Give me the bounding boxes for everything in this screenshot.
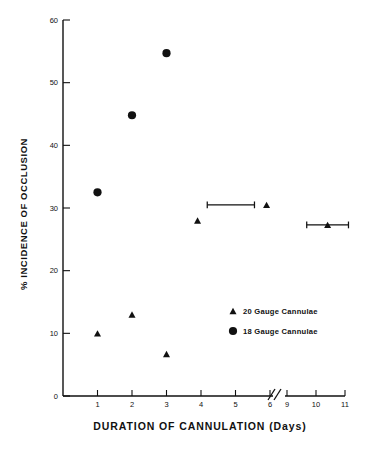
x-tick-label: 10 xyxy=(312,400,320,409)
chart-legend: 20 Gauge Cannulae18 Gauge Cannulae xyxy=(229,307,318,336)
x-tick-label: 9 xyxy=(285,400,289,409)
x-axis-label: DURATION OF CANNULATION (Days) xyxy=(93,420,306,432)
data-point-triangle xyxy=(94,330,101,336)
x-tick-label: 6 xyxy=(268,400,272,409)
x-tick-label: 4 xyxy=(199,400,203,409)
y-tick-label: 40 xyxy=(50,141,58,150)
data-point-triangle xyxy=(129,311,136,317)
axis-break-slash-icon xyxy=(268,389,275,400)
axis-break-slash-icon xyxy=(274,389,281,400)
data-point-triangle xyxy=(263,202,270,208)
x-tick-label: 2 xyxy=(130,400,134,409)
y-tick-label: 0 xyxy=(54,392,58,401)
occlusion-incidence-chart: 0102030405060 12345691011 20 Gauge Cannu… xyxy=(0,0,373,454)
legend-entry-label: 20 Gauge Cannulae xyxy=(243,307,318,316)
x-tick-label: 11 xyxy=(341,400,349,409)
y-axis-label: % INCIDENCE OF OCCLUSION xyxy=(18,138,29,290)
y-tick-label: 30 xyxy=(50,204,58,213)
axes xyxy=(63,20,345,396)
legend-marker-circle xyxy=(229,327,237,335)
y-axis-ticks: 0102030405060 xyxy=(50,16,70,401)
x-tick-label: 5 xyxy=(233,400,237,409)
chart-canvas: 0102030405060 12345691011 20 Gauge Cannu… xyxy=(0,0,373,454)
y-tick-label: 50 xyxy=(50,78,58,87)
legend-marker-triangle xyxy=(230,308,237,314)
data-point-triangle xyxy=(163,351,170,357)
x-axis-ticks: 12345691011 xyxy=(95,390,348,409)
data-point-circle xyxy=(162,49,170,57)
y-tick-label: 60 xyxy=(50,16,58,25)
x-tick-label: 3 xyxy=(164,400,168,409)
y-tick-label: 20 xyxy=(50,266,58,275)
data-point-circle xyxy=(93,188,101,196)
legend-entry-label: 18 Gauge Cannulae xyxy=(243,327,318,336)
data-point-triangle xyxy=(194,217,201,223)
x-tick-label: 1 xyxy=(95,400,99,409)
data-point-circle xyxy=(128,111,136,119)
y-tick-label: 10 xyxy=(50,329,58,338)
